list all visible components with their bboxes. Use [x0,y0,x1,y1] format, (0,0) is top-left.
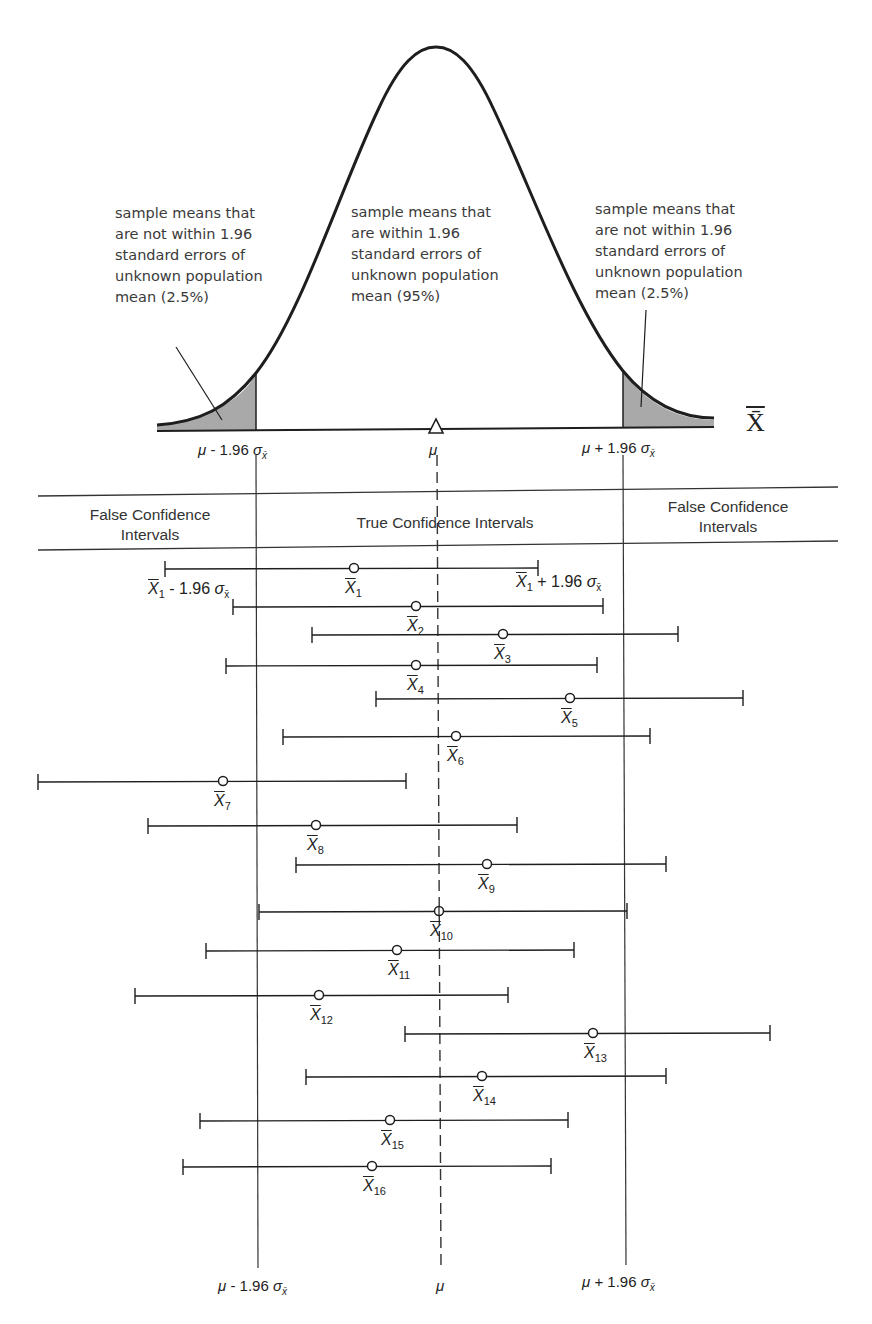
confidence-interval-7 [38,773,406,790]
sample-mean-label-13: X13 [584,1044,607,1064]
sample-mean-label-11: X11 [388,961,410,981]
sample-mean-marker [483,860,492,869]
interval-group [38,560,770,1175]
x-bar-axis-label: X̄ [746,408,765,438]
bottom-upper-bound-label: μ + 1.96 σx̄ [582,1273,655,1293]
sample-mean-marker [350,564,359,573]
right-tail-annotation: sample means that are not within 1.96 st… [595,199,743,304]
bottom-mean-label: μ [436,1277,444,1294]
confidence-interval-11 [206,942,574,959]
interval-1-lower-label: X1 - 1.96 σx̄ [148,580,229,600]
confidence-interval-5 [376,690,743,707]
sample-mean-label-4: X4 [407,676,424,696]
sample-mean-marker [566,694,575,703]
sample-mean-marker [478,1072,487,1081]
sample-mean-marker [393,946,402,955]
confidence-interval-13 [405,1025,770,1042]
sample-mean-label-6: X6 [447,747,464,767]
true-zone-label: True Confidence Intervals [300,513,590,533]
confidence-interval-16 [183,1158,551,1175]
sample-mean-label-8: X8 [307,836,324,856]
confidence-interval-9 [296,856,666,873]
sample-mean-marker [412,661,421,670]
sample-mean-marker [412,602,421,611]
sample-mean-label-1: X1 [345,579,362,599]
sample-mean-label-3: X3 [494,645,511,665]
sample-mean-marker [219,777,228,786]
confidence-interval-15 [200,1112,568,1129]
sample-mean-label-16: X16 [363,1177,386,1197]
confidence-interval-6 [283,728,650,745]
mean-line [437,455,441,1267]
right-false-zone-label: False Confidence Intervals [648,497,808,537]
sample-mean-label-12: X12 [310,1006,333,1026]
sample-mean-marker [386,1116,395,1125]
top-upper-bound-label: μ + 1.96 σx̄ [582,439,655,459]
upper-bound-line [623,455,626,1265]
sample-mean-label-14: X14 [473,1087,496,1107]
sample-mean-marker [452,732,461,741]
left-false-zone-label: False Confidence Intervals [70,505,230,545]
confidence-interval-10 [259,903,627,920]
confidence-interval-14 [306,1068,666,1085]
sample-mean-marker [499,630,508,639]
interval-1-upper-label: X1 + 1.96 σx̄ [516,573,601,593]
sample-mean-marker [312,821,321,830]
sample-mean-marker [315,991,324,1000]
bottom-lower-bound-label: μ - 1.96 σx̄ [218,1277,287,1297]
confidence-interval-4 [226,657,597,674]
lower-bound-line [256,455,258,1268]
top-mean-label: μ [429,441,437,458]
confidence-interval-8 [148,817,517,834]
confidence-interval-12 [135,987,508,1004]
left-leader-line [176,347,222,420]
center-annotation: sample means that are within 1.96 standa… [351,202,499,307]
sample-mean-label-15: X15 [381,1131,404,1151]
sample-mean-label-2: X2 [407,617,424,637]
left-tail-annotation: sample means that are not within 1.96 st… [115,203,263,308]
sample-mean-marker [368,1162,377,1171]
sample-mean-label-5: X5 [561,709,578,729]
sample-mean-label-7: X7 [214,792,231,812]
confidence-interval-2 [233,598,603,615]
sample-mean-label-10: X10 [430,922,453,942]
mean-marker-triangle [429,419,443,433]
sample-mean-marker [589,1029,598,1038]
confidence-interval-1 [165,560,538,577]
sample-mean-label-9: X9 [478,875,495,895]
top-lower-bound-label: μμ - 1.96 σ - 1.96 σx̄ [198,441,267,461]
